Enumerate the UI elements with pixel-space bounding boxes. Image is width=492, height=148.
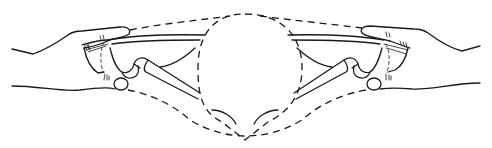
pelvis-hands-diagram (0, 0, 492, 148)
pelvis-outline (128, 16, 366, 136)
illustration (0, 0, 492, 148)
left-hand (12, 27, 130, 91)
fetal-head-outline (198, 14, 302, 140)
